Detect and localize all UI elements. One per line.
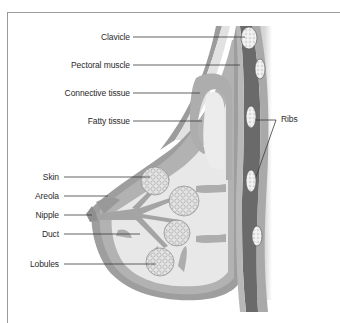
label-ribs: Ribs <box>281 114 298 124</box>
label-areola: Areola <box>35 191 59 201</box>
label-skin: Skin <box>43 172 59 182</box>
label-nipple: Nipple <box>36 210 60 220</box>
breast-anatomy-illustration <box>0 0 340 323</box>
label-fatty-tissue: Fatty tissue <box>88 116 130 126</box>
label-lobules: Lobules <box>30 259 59 269</box>
label-clavicle: Clavicle <box>101 32 130 42</box>
label-pectoral-muscle: Pectoral muscle <box>71 60 130 70</box>
label-duct: Duct <box>42 229 59 239</box>
label-connective-tissue: Connective tissue <box>65 88 130 98</box>
